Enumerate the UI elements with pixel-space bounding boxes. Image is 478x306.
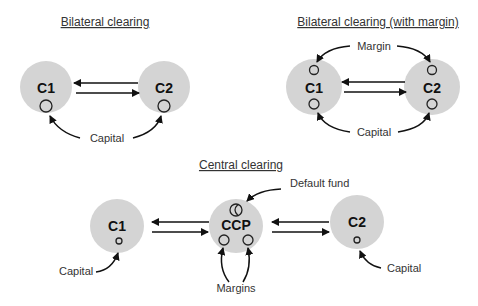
node-c2: C2 (404, 59, 460, 115)
panel-central: Central clearing C1 CCP C2 Default fu (59, 158, 421, 294)
margin-arrow-c1 (317, 46, 350, 62)
node-label: C2 (155, 80, 173, 96)
node-c1: C1 (90, 199, 144, 253)
node-label: C1 (37, 80, 55, 96)
node-label: C1 (108, 218, 126, 234)
capital-arrow-c1 (318, 113, 350, 132)
margin-arrow-c2 (397, 46, 430, 62)
node-label: CCP (221, 217, 251, 233)
node-ccp: CCP (209, 199, 263, 253)
capital-arrow-c1 (96, 253, 118, 272)
capital-arrow-c1 (50, 116, 80, 138)
margin-arrow-left (221, 248, 229, 282)
clearing-diagram: Bilateral clearing C1 C2 Capital Bilater… (0, 0, 478, 306)
capital-label-right: Capital (387, 262, 421, 274)
panel-bilateral-margin: Bilateral clearing (with margin) C1 C2 M… (286, 15, 460, 138)
capital-arrow-c2 (398, 113, 429, 132)
capital-label: Capital (90, 132, 124, 144)
capital-arrow-c2 (133, 116, 161, 138)
node-label: C2 (423, 80, 441, 96)
panel-title: Central clearing (199, 158, 283, 172)
margins-label: Margins (216, 282, 256, 294)
node-c1: C1 (286, 59, 342, 115)
default-fund-arrow (247, 189, 281, 201)
node-c2: C2 (138, 61, 190, 113)
node-c1: C1 (20, 61, 72, 113)
capital-arrow-c2 (360, 251, 381, 268)
margin-arrow-right (243, 248, 249, 282)
panel-bilateral: Bilateral clearing C1 C2 Capital (20, 15, 190, 144)
node-label: C2 (348, 214, 366, 230)
node-label: C1 (305, 80, 323, 96)
margin-label: Margin (357, 40, 391, 52)
capital-label: Capital (357, 126, 391, 138)
panel-title: Bilateral clearing (with margin) (297, 15, 458, 29)
capital-label-left: Capital (59, 265, 93, 277)
default-fund-label: Default fund (290, 177, 349, 189)
node-c2: C2 (330, 195, 384, 249)
panel-title: Bilateral clearing (61, 15, 150, 29)
